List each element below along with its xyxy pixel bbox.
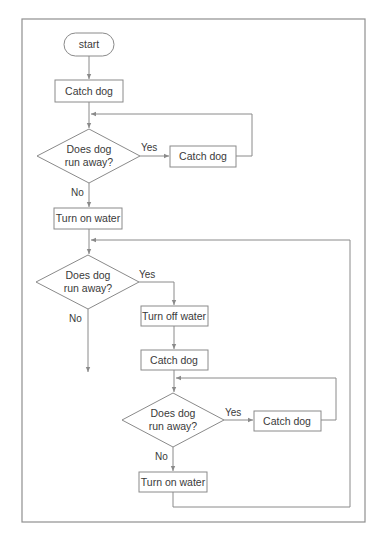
decision-1-no-label: No <box>71 187 84 198</box>
decision-node-1: Does dog run away? <box>37 129 140 183</box>
catch-dog-label-4: Catch dog <box>263 415 311 427</box>
decision-node-3: Does dog run away? <box>122 393 224 447</box>
turn-on-water-node-1: Turn on water <box>54 208 122 229</box>
decision-2-line2: run away? <box>64 282 113 294</box>
catch-dog-node-2: Catch dog <box>170 146 236 167</box>
flowchart-canvas: start Catch dog Does dog run away? Yes N… <box>0 0 383 534</box>
catch-dog-label-3: Catch dog <box>150 354 198 366</box>
catch-dog-node-1: Catch dog <box>55 80 123 102</box>
start-node: start <box>64 33 114 56</box>
decision-2-yes-label: Yes <box>139 269 155 280</box>
turn-on-water-node-2: Turn on water <box>139 472 207 492</box>
decision-2-no-label: No <box>69 313 82 324</box>
turn-off-water-node: Turn off water <box>141 306 208 326</box>
turn-on-water-label-2: Turn on water <box>141 476 206 488</box>
decision-1-line1: Does dog <box>67 143 112 155</box>
catch-dog-label-1: Catch dog <box>65 85 113 97</box>
decision-3-line2: run away? <box>149 420 198 432</box>
edge-decision2-yes <box>139 282 174 305</box>
catch-dog-node-3: Catch dog <box>141 350 208 370</box>
turn-on-water-label-1: Turn on water <box>56 212 121 224</box>
decision-2-line1: Does dog <box>66 269 111 281</box>
decision-node-2: Does dog run away? <box>36 255 139 309</box>
decision-1-line2: run away? <box>65 156 114 168</box>
catch-dog-label-2: Catch dog <box>179 150 227 162</box>
turn-off-water-label: Turn off water <box>142 310 207 322</box>
decision-3-yes-label: Yes <box>225 407 241 418</box>
decision-1-yes-label: Yes <box>141 142 157 153</box>
decision-3-no-label: No <box>155 451 168 462</box>
catch-dog-node-4: Catch dog <box>254 411 321 431</box>
decision-3-line1: Does dog <box>151 407 196 419</box>
start-label: start <box>79 38 100 50</box>
